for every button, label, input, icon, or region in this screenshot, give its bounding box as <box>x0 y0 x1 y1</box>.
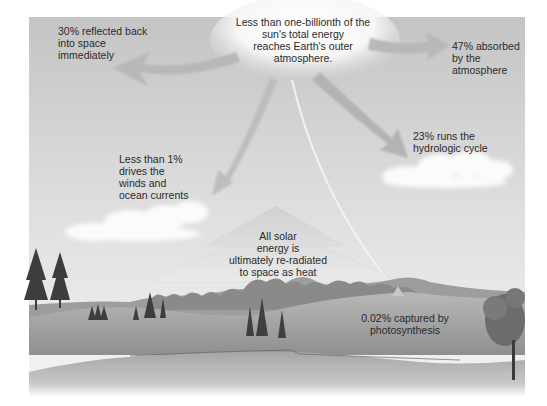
absorbed-label: 47% absorbed by the atmosphere <box>452 40 520 76</box>
winds-label: Less than 1% drives the winds and ocean … <box>119 153 188 201</box>
reflected-label: 30% reflected back into space immediatel… <box>58 25 147 61</box>
hydrologic-label: 23% runs the hydrologic cycle <box>413 130 488 154</box>
photosynthesis-label: 0.02% captured by photosynthesis <box>350 312 460 336</box>
sun-energy-label: Less than one-billionth of the sun's tot… <box>218 16 388 64</box>
reradiated-label: All solar energy is ultimately re-radiat… <box>218 230 338 278</box>
